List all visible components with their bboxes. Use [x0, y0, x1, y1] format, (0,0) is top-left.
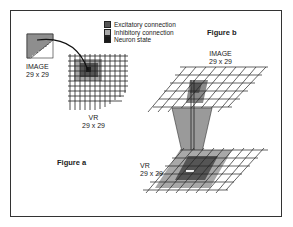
legend-label: Inhibitory connection: [114, 29, 174, 37]
neuron-swatch: [104, 36, 111, 43]
figure-a-vr-label: VR 29 x 29: [82, 114, 105, 130]
figure-a-image-label: IMAGE 29 x 29: [26, 63, 49, 79]
legend-item-excitatory: Excitatory connection: [104, 21, 176, 29]
legend: Excitatory connection Inhibitory connect…: [104, 21, 176, 44]
legend-item-neuron: Neuron state: [104, 36, 176, 44]
inhibitory-swatch: [104, 29, 111, 36]
legend-label: Neuron state: [114, 36, 151, 44]
excitatory-swatch: [104, 21, 111, 28]
figure-b-image-grid: [148, 67, 268, 112]
figure-b-vr-label: VR 29 x 29: [140, 162, 163, 178]
figure-a-caption: Figure a: [57, 159, 86, 167]
legend-item-inhibitory: Inhibitory connection: [104, 29, 176, 37]
legend-label: Excitatory connection: [114, 21, 176, 29]
figure-b-image-label: IMAGE 29 x 29: [209, 50, 232, 66]
figure-a-image-grid: [27, 34, 53, 58]
figure-b-caption: Figure b: [207, 29, 237, 37]
